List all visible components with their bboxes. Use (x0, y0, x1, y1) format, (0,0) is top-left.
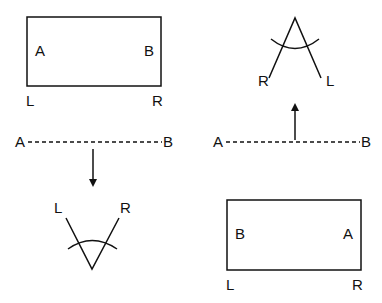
bottom-left-v-lines (66, 218, 119, 269)
bottom-right-rect-corner-bottom-right: R (352, 276, 363, 293)
top-left-rect-label-left: A (35, 42, 45, 59)
right-dashed-line-group: A B (213, 103, 371, 150)
bottom-right-rect-label-left: B (235, 225, 245, 242)
top-left-rect-corner-bottom-right: R (152, 92, 163, 109)
left-dashed-line-group: A B (15, 133, 173, 187)
top-left-rectangle (27, 17, 161, 86)
bottom-left-v-label-right: R (120, 199, 131, 216)
bottom-right-rectangle-group: B A L R (226, 200, 363, 293)
bottom-left-v-label-left: L (54, 199, 62, 216)
right-dashed-label-b: B (361, 133, 371, 150)
bottom-right-rect-corner-bottom-left: L (226, 276, 234, 293)
top-left-rect-corner-bottom-left: L (26, 92, 34, 109)
bottom-left-arc (68, 241, 117, 250)
bottom-right-rect-label-right: A (343, 225, 353, 242)
top-right-v-label-right: L (326, 72, 334, 89)
right-dashed-label-a: A (213, 133, 223, 150)
bottom-left-v-group: L R (54, 199, 131, 269)
up-arrow-icon (291, 103, 299, 111)
top-left-rectangle-group: A B L R (26, 17, 163, 109)
top-right-arc (271, 39, 319, 49)
left-dashed-label-b: B (163, 133, 173, 150)
down-arrow-icon (89, 179, 97, 187)
left-dashed-label-a: A (15, 133, 25, 150)
diagram-canvas: A B L R R L A B A B L R B A L R (0, 0, 382, 303)
bottom-right-rectangle (227, 200, 361, 270)
top-left-rect-label-right: B (144, 42, 154, 59)
top-right-v-group: R L (258, 18, 334, 89)
top-right-v-label-left: R (258, 72, 269, 89)
